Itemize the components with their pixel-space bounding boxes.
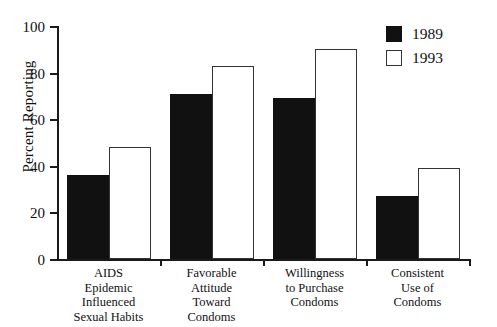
- bar-1989-cat3: [273, 98, 315, 259]
- legend-item-1993: 1993: [386, 46, 443, 70]
- x-axis-tick-2: [263, 259, 265, 266]
- y-tick-0: 0: [50, 259, 57, 261]
- bar-1989-cat1: [67, 175, 109, 259]
- y-tick-80: 80: [50, 73, 57, 75]
- y-tick-60: 60: [50, 119, 57, 121]
- black-square-swatch-icon: [386, 26, 402, 42]
- y-tick-label-20: 20: [30, 205, 45, 222]
- category-label-2: FavorableAttitudeTowardCondoms: [160, 266, 263, 324]
- x-axis-tick-4: [469, 259, 471, 266]
- category-label-3: Willingnessto PurchaseCondoms: [263, 266, 366, 310]
- bar-1989-cat4: [376, 196, 418, 259]
- category-label-1: AIDSEpidemicInfluencedSexual Habits: [57, 266, 160, 324]
- y-axis-line: [57, 26, 59, 261]
- legend-label-1989: 1989: [412, 25, 443, 43]
- bar-1993-cat2: [212, 66, 254, 259]
- y-tick-label-60: 60: [30, 112, 45, 129]
- x-axis-tick-1: [160, 259, 162, 266]
- y-tick-label-0: 0: [38, 252, 46, 269]
- bar-1993-cat4: [418, 168, 460, 259]
- category-label-4: ConsistentUse ofCondoms: [366, 266, 469, 310]
- x-axis-tick-3: [366, 259, 368, 266]
- bar-chart: Percent Reporting 100 80 60 40 20 0 AIDS…: [0, 0, 497, 327]
- y-tick-label-100: 100: [23, 19, 46, 36]
- legend-item-1989: 1989: [386, 22, 443, 46]
- legend-label-1993: 1993: [412, 49, 443, 67]
- bar-1993-cat3: [315, 49, 357, 259]
- y-tick-label-40: 40: [30, 158, 45, 175]
- bar-1989-cat2: [170, 94, 212, 259]
- y-tick-label-80: 80: [30, 65, 45, 82]
- chart-legend: 1989 1993: [386, 22, 443, 70]
- bar-1993-cat1: [109, 147, 151, 259]
- white-square-swatch-icon: [386, 50, 402, 66]
- y-tick-20: 20: [50, 212, 57, 214]
- y-tick-40: 40: [50, 166, 57, 168]
- y-tick-100: 100: [50, 26, 57, 28]
